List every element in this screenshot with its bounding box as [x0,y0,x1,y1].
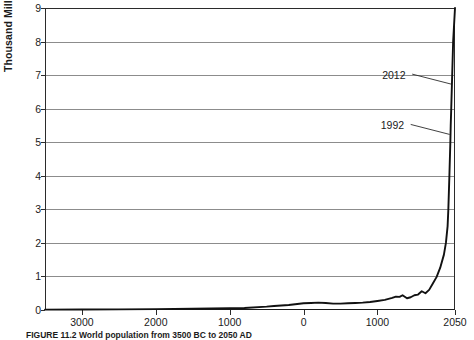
annotation-1992: 1992 [381,119,404,131]
population-line [45,8,455,310]
y-tick-mark-7 [41,75,45,76]
leader-line-1992 [411,124,450,134]
leader-line-2012 [412,74,451,84]
y-tick-mark-5 [41,142,45,143]
y-tick-mark-0 [41,310,45,311]
y-tick-mark-6 [41,109,45,110]
y-tick-mark-8 [41,42,45,43]
annotation-leader-lines [411,74,451,134]
y-tick-mark-1 [41,276,45,277]
annotation-2012: 2012 [382,69,405,81]
y-tick-mark-4 [41,176,45,177]
y-tick-mark-3 [41,209,45,210]
y-tick-mark-2 [41,243,45,244]
figure-caption: FIGURE 11.2 World population from 3500 B… [26,330,474,340]
y-tick-mark-9 [41,8,45,9]
